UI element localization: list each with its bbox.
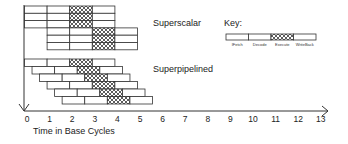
stage-ifetch [62,97,85,105]
stage-writeback [115,28,138,35]
key-label-decode: Decode [253,42,267,47]
stage-decode [70,82,93,90]
stage-decode [70,35,93,42]
key-decode [249,34,272,40]
stage-execute [70,21,93,28]
x-tick-1: 1 [47,114,52,124]
stage-ifetch [47,28,70,35]
superpipelined-label: Superpipelined [153,64,213,74]
stage-writeback [92,6,115,13]
stage-ifetch [47,35,70,42]
stage-ifetch [32,67,55,75]
stage-writeback [92,21,115,28]
stage-decode [55,67,78,75]
stage-writeback [100,67,123,75]
stage-decode [47,59,70,67]
stage-writeback [107,74,130,82]
x-tick-11: 11 [271,114,280,124]
stage-decode [47,21,70,28]
x-axis-title: Time in Base Cycles [33,126,115,136]
superpipelined-diagram [25,59,153,104]
key-legend [226,34,316,40]
key-ifetch [226,34,249,40]
x-tick-9: 9 [228,114,233,124]
stage-writeback [122,89,145,97]
stage-ifetch [47,43,70,50]
x-tick-12: 12 [293,114,302,124]
stage-execute [70,13,93,20]
stage-ifetch [25,59,48,67]
stage-execute [92,35,115,42]
stage-decode [85,97,108,105]
stage-writeback [115,43,138,50]
stage-decode [70,43,93,50]
stage-ifetch [25,6,48,13]
superscalar-diagram [25,6,138,50]
x-tick-0: 0 [25,114,30,124]
stage-decode [47,6,70,13]
superscalar-label: Superscalar [153,18,201,28]
x-tick-2: 2 [70,114,75,124]
stage-execute [107,97,130,105]
stage-execute [92,43,115,50]
x-tick-4: 4 [115,114,120,124]
key-label-execute: Execute [275,42,289,47]
x-tick-10: 10 [248,114,257,124]
x-tick-8: 8 [205,114,210,124]
key-writeback [294,34,317,40]
stage-decode [47,13,70,20]
stage-writeback [92,59,115,67]
stage-execute [70,6,93,13]
stage-execute [77,67,100,75]
stage-ifetch [40,74,63,82]
stage-writeback [115,82,138,90]
x-tick-7: 7 [183,114,188,124]
stage-execute [92,28,115,35]
stage-ifetch [47,82,70,90]
stage-writeback [92,13,115,20]
stage-ifetch [55,89,78,97]
key-label-writeback: WriteBack [296,42,314,47]
stage-decode [77,89,100,97]
key-label-ifetch: IFetch [232,42,243,47]
x-tick-13: 13 [316,114,325,124]
stage-ifetch [25,21,48,28]
stage-writeback [130,97,153,105]
stage-execute [85,74,108,82]
stage-execute [100,89,123,97]
stage-writeback [115,35,138,42]
x-tick-6: 6 [160,114,165,124]
x-tick-3: 3 [92,114,97,124]
stage-ifetch [25,13,48,20]
stage-decode [62,74,85,82]
key-title: Key: [224,18,242,28]
stage-execute [92,82,115,90]
stage-decode [70,28,93,35]
x-tick-5: 5 [138,114,143,124]
stage-execute [70,59,93,67]
key-execute [271,34,294,40]
